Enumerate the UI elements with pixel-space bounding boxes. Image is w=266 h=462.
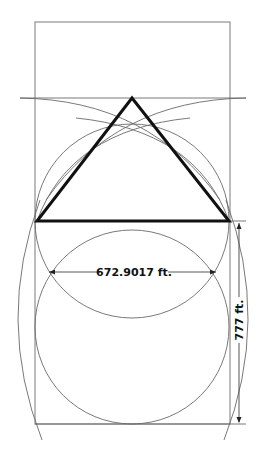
width-arrow-left-icon <box>49 270 55 275</box>
triangle <box>37 98 229 221</box>
lower-circle <box>35 230 229 424</box>
height-arrow-top-icon <box>237 223 242 229</box>
width-dimension-label: 672.9017 ft. <box>96 266 172 279</box>
height-arrow-bottom-icon <box>237 417 242 423</box>
inner-arc-right <box>76 118 229 221</box>
outer-arc-left <box>18 200 42 440</box>
construction-arc-right <box>46 98 246 200</box>
geometric-construction-diagram: 672.9017 ft. 777 ft. <box>0 0 266 462</box>
outer-rectangle <box>35 22 230 424</box>
inner-arc-left <box>37 118 190 221</box>
height-dimension-label: 777 ft. <box>233 299 246 340</box>
